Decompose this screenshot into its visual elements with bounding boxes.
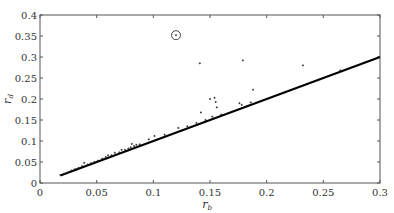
y-tick-label: 0.05 <box>15 157 37 168</box>
x-axis-label: rb <box>202 198 212 212</box>
y-tick-label: 0.1 <box>21 136 37 147</box>
x-tick-labels: 00.050.10.150.20.250.3 <box>37 187 388 198</box>
x-tick-label: 0.1 <box>145 187 161 198</box>
y-tick-label: 0.35 <box>15 31 37 42</box>
y-axis-label: rd <box>1 94 15 104</box>
scatter-chart: 00.050.10.150.20.250.3 00.050.10.150.20.… <box>0 0 394 213</box>
x-tick-label: 0.2 <box>259 187 275 198</box>
x-tick-label: 0.05 <box>86 187 108 198</box>
x-tick-label: 0.3 <box>372 187 388 198</box>
x-tick-label: 0.15 <box>199 187 221 198</box>
x-tick-label: 0 <box>37 187 43 198</box>
y-tick-label: 0.15 <box>15 115 37 126</box>
scatter-points <box>59 59 341 176</box>
circled-outlier <box>172 31 181 40</box>
x-tick-label: 0.25 <box>312 187 334 198</box>
y-tick-label: 0 <box>31 178 37 189</box>
y-tick-labels: 00.050.10.150.20.250.30.350.4 <box>15 10 37 189</box>
y-tick-label: 0.4 <box>21 10 37 21</box>
y-tick-label: 0.3 <box>21 52 37 63</box>
y-tick-label: 0.25 <box>15 73 37 84</box>
outlier-point <box>175 34 177 36</box>
identity-line <box>60 57 380 175</box>
y-tick-label: 0.2 <box>21 94 37 105</box>
identity-line-segment <box>60 57 380 175</box>
